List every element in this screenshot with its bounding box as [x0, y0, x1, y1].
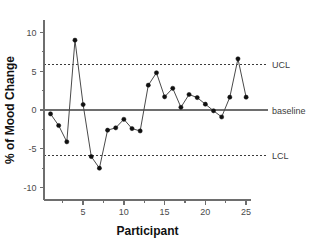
- data-point: [154, 71, 158, 75]
- data-point: [114, 126, 118, 130]
- y-axis-title: % of Mood Change: [3, 56, 17, 164]
- data-point: [89, 154, 93, 158]
- data-point: [105, 128, 109, 132]
- y-tick-label-minus-10: -10: [23, 183, 36, 193]
- data-point: [146, 83, 150, 87]
- data-point: [48, 112, 52, 116]
- data-point: [97, 166, 101, 170]
- data-point: [203, 102, 207, 106]
- data-point: [130, 127, 134, 131]
- data-series: [48, 38, 248, 170]
- data-point: [236, 57, 240, 61]
- y-axis: 10 5 0 -5 -10: [23, 20, 44, 200]
- x-tick-label-25: 25: [241, 207, 251, 217]
- data-point: [195, 95, 199, 99]
- y-tick-label-10: 10: [26, 28, 36, 38]
- x-axis: 5 10 15 20 25: [44, 200, 251, 217]
- data-point: [81, 102, 85, 106]
- data-point: [65, 140, 69, 144]
- y-tick-label-5: 5: [31, 67, 36, 77]
- data-point: [73, 38, 77, 42]
- ucl-label: UCL: [272, 60, 290, 70]
- y-tick-label-0: 0: [31, 105, 36, 115]
- baseline-label: baseline: [272, 106, 306, 116]
- mood-change-line: [51, 40, 247, 168]
- data-point: [211, 109, 215, 113]
- y-tick-label-minus-5: -5: [28, 144, 36, 154]
- data-point: [122, 117, 126, 121]
- data-point: [171, 86, 175, 90]
- x-tick-label-20: 20: [200, 207, 210, 217]
- reference-line-labels: UCL baseline LCL: [272, 60, 306, 161]
- chart-canvas: 10 5 0 -5 -10 5 10 15 20 25 UCL baseline…: [0, 0, 314, 250]
- x-tick-label-10: 10: [119, 207, 129, 217]
- data-point: [187, 92, 191, 96]
- x-tick-label-5: 5: [81, 207, 86, 217]
- x-tick-label-15: 15: [160, 207, 170, 217]
- data-point: [179, 105, 183, 109]
- data-point: [163, 95, 167, 99]
- data-point: [138, 129, 142, 133]
- data-point: [228, 95, 232, 99]
- data-point: [220, 115, 224, 119]
- data-point: [244, 95, 248, 99]
- data-point: [57, 123, 61, 127]
- mood-change-markers: [48, 38, 248, 170]
- control-chart-figure: 10 5 0 -5 -10 5 10 15 20 25 UCL baseline…: [0, 0, 314, 250]
- x-axis-title: Participant: [116, 224, 178, 238]
- lcl-label: LCL: [272, 151, 289, 161]
